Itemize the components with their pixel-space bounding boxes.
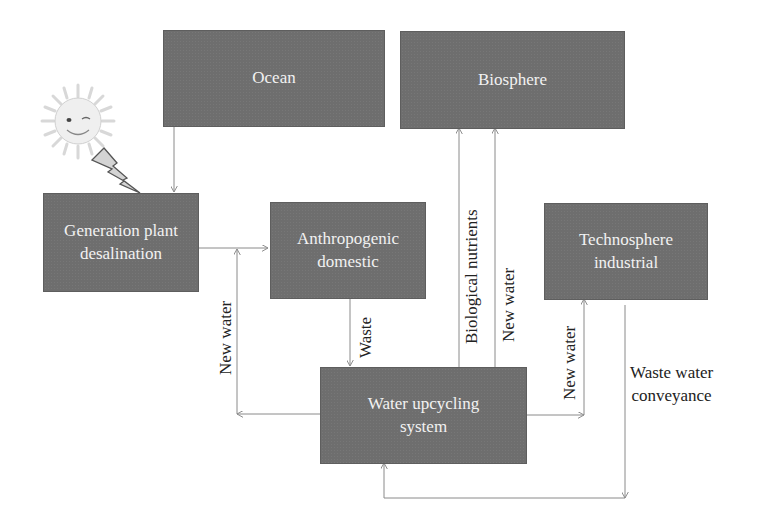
node-water-upcycling-label: Water upcycling system (368, 393, 479, 437)
node-anthropogenic: Anthropogenic domestic (270, 202, 426, 299)
node-biosphere: Biosphere (400, 31, 625, 129)
node-generation-plant-label: Generation plant desalination (64, 220, 178, 264)
sun-icon (42, 85, 114, 158)
lightning-bolt-icon (92, 148, 140, 193)
label-new-water-left: New water (216, 301, 236, 375)
node-water-upcycling: Water upcycling system (320, 367, 527, 464)
node-technosphere: Technosphere industrial (544, 203, 708, 300)
node-ocean: Ocean (163, 30, 385, 127)
label-waste-water-conveyance: Waste water conveyance (630, 362, 713, 408)
node-ocean-label: Ocean (252, 67, 295, 89)
label-waste: Waste (356, 317, 376, 358)
label-new-water-biosphere: New water (499, 268, 519, 342)
label-new-water-techno: New water (560, 326, 580, 400)
node-anthropogenic-label: Anthropogenic domestic (297, 228, 399, 272)
node-biosphere-label: Biosphere (478, 69, 547, 91)
node-technosphere-label: Technosphere industrial (579, 229, 673, 273)
node-generation-plant: Generation plant desalination (43, 193, 199, 292)
label-biological-nutrients: Biological nutrients (462, 209, 482, 344)
